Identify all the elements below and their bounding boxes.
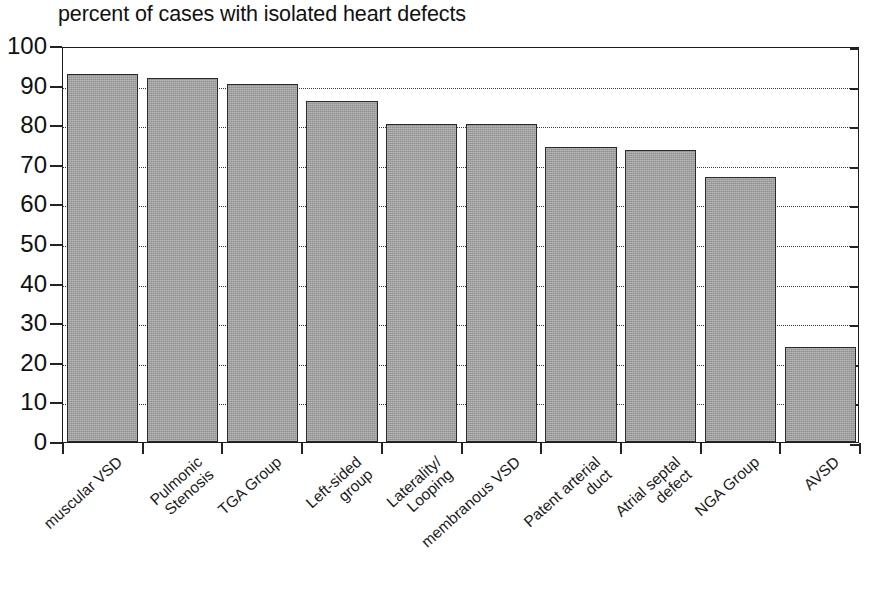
- x-axis: muscular VSDPulmonicStenosisTGA GroupLef…: [0, 443, 875, 583]
- y-tick-mark-60: [50, 204, 62, 206]
- y-tick-label-70: 70: [0, 153, 47, 177]
- bar-1: [147, 78, 218, 442]
- chart-title: percent of cases with isolated heart def…: [58, 2, 758, 27]
- bar-9: [785, 347, 856, 442]
- bar-series: [63, 48, 858, 442]
- y-tick-label-60: 60: [0, 192, 47, 216]
- y-tick-label-10: 10: [0, 390, 47, 414]
- bar-6: [545, 147, 616, 442]
- y-tick-mark-50: [50, 244, 62, 246]
- x-tick-label-7: Atrial septaldefect: [612, 453, 695, 532]
- y-tick-mark-70: [50, 165, 62, 167]
- y-tick-mark-90: [50, 86, 62, 88]
- y-tick-mark-80: [50, 125, 62, 127]
- bar-0: [67, 74, 138, 442]
- plot-area: [62, 47, 859, 443]
- y-tick-label-40: 40: [0, 272, 47, 296]
- bar-7: [625, 150, 696, 442]
- bar-3: [306, 101, 377, 442]
- y-tick-label-90: 90: [0, 74, 47, 98]
- x-tick-label-line1-8: NGA Group: [692, 453, 763, 519]
- y-tick-mark-20: [50, 363, 62, 365]
- x-tick-label-0: muscular VSD: [40, 453, 125, 532]
- bar-chart-figure: percent of cases with isolated heart def…: [0, 0, 875, 608]
- x-tick-label-line1-0: muscular VSD: [40, 453, 125, 532]
- y-tick-mark-100: [50, 46, 62, 48]
- bar-2: [227, 84, 298, 442]
- bottom-caption: [40, 596, 840, 608]
- bar-8: [705, 177, 776, 442]
- y-tick-label-80: 80: [0, 113, 47, 137]
- x-tick-label-1: PulmonicStenosis: [146, 453, 216, 521]
- x-tick-label-3: Left-sidedgroup: [302, 453, 375, 524]
- x-tick-label-8: NGA Group: [692, 453, 763, 519]
- y-tick-label-50: 50: [0, 232, 47, 256]
- x-tick-label-6: Patent arterialduct: [520, 453, 614, 543]
- y-axis: 1009080706050403020100: [0, 47, 47, 443]
- y-tick-label-30: 30: [0, 311, 47, 335]
- x-tick-label-line1-9: AVSD: [801, 453, 843, 493]
- x-tick-label-9: AVSD: [801, 453, 843, 493]
- y-tick-label-100: 100: [0, 34, 47, 58]
- y-tick-mark-40: [50, 284, 62, 286]
- y-tick-mark-10: [50, 402, 62, 404]
- x-tick-label-2: TGA Group: [215, 453, 285, 518]
- bar-4: [386, 124, 457, 442]
- bar-5: [466, 124, 537, 442]
- y-tick-label-20: 20: [0, 351, 47, 375]
- x-tick-label-line1-2: TGA Group: [215, 453, 285, 518]
- y-tick-mark-30: [50, 323, 62, 325]
